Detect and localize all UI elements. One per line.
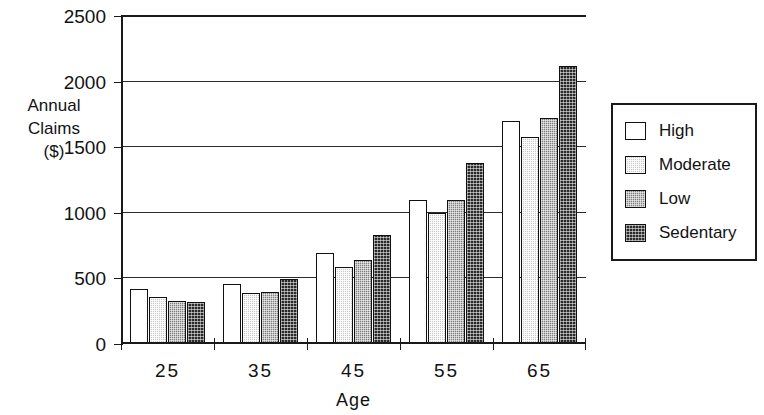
bar-55-high	[409, 200, 428, 344]
bar-25-moderate	[149, 297, 168, 344]
bar-group-65	[493, 16, 586, 344]
legend: HighModerateLowSedentary	[611, 103, 757, 261]
legend-swatch-sedentary	[625, 224, 646, 242]
legend-rows: HighModerateLowSedentary	[625, 114, 755, 250]
bar-group-45	[307, 16, 400, 344]
x-tick-label-25: 25	[128, 360, 208, 382]
x-tick-mark-55	[400, 338, 401, 350]
bar-65-high	[502, 121, 521, 344]
bar-45-sedentary	[373, 235, 392, 344]
y-tick-label-0: 0	[28, 335, 106, 354]
bar-65-low	[540, 118, 559, 344]
bar-45-low	[354, 260, 373, 344]
legend-swatch-high	[625, 122, 646, 140]
x-tick-label-35: 35	[221, 360, 301, 382]
x-tick-label-55: 55	[407, 360, 487, 382]
legend-item-low: Low	[625, 182, 755, 216]
bar-45-high	[316, 253, 335, 344]
legend-label-high: High	[659, 121, 694, 141]
y-tick-label-500: 500	[28, 269, 106, 288]
y-tick-label-2000: 2000	[28, 73, 106, 92]
bar-group-35	[214, 16, 307, 344]
bar-35-moderate	[242, 293, 261, 344]
legend-label-moderate: Moderate	[659, 155, 731, 175]
bar-35-sedentary	[280, 279, 299, 344]
legend-swatch-moderate	[625, 156, 646, 174]
bar-35-high	[223, 284, 242, 344]
x-tick-mark-35	[214, 338, 215, 350]
y-tick-label-1000: 1000	[28, 204, 106, 223]
bar-25-high	[130, 289, 149, 344]
y-axis-title-line-1: Annual	[0, 94, 108, 117]
legend-swatch-low	[625, 190, 646, 208]
legend-item-moderate: Moderate	[625, 148, 755, 182]
legend-label-sedentary: Sedentary	[659, 223, 737, 243]
bar-45-moderate	[335, 267, 354, 344]
bar-65-sedentary	[559, 66, 578, 344]
bar-group-55	[400, 16, 493, 344]
bar-55-moderate	[428, 213, 447, 344]
plot-area	[121, 16, 586, 344]
legend-item-sedentary: Sedentary	[625, 216, 755, 250]
bar-35-low	[261, 292, 280, 344]
legend-label-low: Low	[659, 189, 690, 209]
bar-65-moderate	[521, 137, 540, 344]
x-tick-label-45: 45	[314, 360, 394, 382]
y-tick-label-1500: 1500	[28, 138, 106, 157]
x-axis-line	[121, 342, 586, 344]
legend-item-high: High	[625, 114, 755, 148]
chart-figure: Annual Claims ($) 05001000150020002500 2…	[0, 0, 764, 415]
bar-55-low	[447, 200, 466, 344]
bar-25-low	[168, 301, 187, 344]
bar-55-sedentary	[466, 163, 485, 344]
y-tick-label-2500: 2500	[28, 7, 106, 26]
x-tick-label-65: 65	[500, 360, 580, 382]
bar-25-sedentary	[187, 302, 206, 344]
bar-group-25	[121, 16, 214, 344]
x-tick-mark-25	[121, 338, 122, 350]
x-tick-mark-65	[493, 338, 494, 350]
x-tick-mark-end	[585, 338, 586, 350]
x-axis-title: Age	[121, 390, 586, 411]
x-tick-mark-45	[307, 338, 308, 350]
